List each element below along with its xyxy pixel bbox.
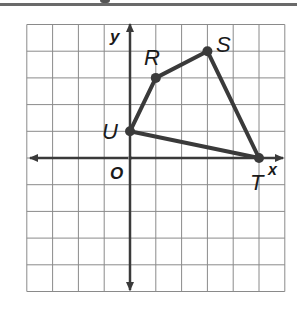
vertex-label-u: U — [102, 119, 118, 144]
coordinate-plane: y x O R S T U — [0, 0, 300, 310]
x-axis-label: x — [267, 161, 278, 178]
origin-label: O — [110, 164, 123, 183]
vertex-label-s: S — [216, 32, 231, 57]
vertex-label-t: T — [250, 170, 265, 195]
vertex-label-r: R — [144, 45, 160, 70]
y-axis-label: y — [109, 27, 121, 46]
